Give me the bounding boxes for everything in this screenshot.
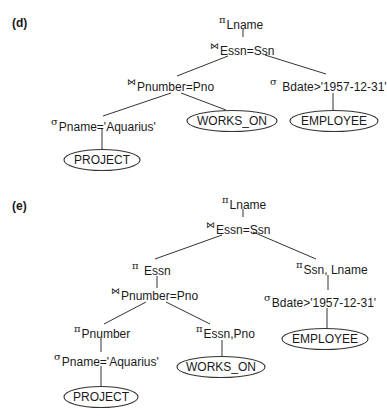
project-lname-node: πLname (219, 16, 263, 32)
node-label: Bdate>'1957-12-31' (272, 296, 376, 310)
node-label: Ssn, Lname (304, 263, 368, 277)
node-label: Essn=Ssn (220, 44, 274, 58)
sigma-icon: σ (51, 116, 58, 127)
edge (155, 235, 222, 259)
pi-icon: π (74, 323, 81, 334)
join-essn-ssn-node: ⋈Essn=Ssn (210, 42, 274, 58)
panel-label-d: (d) (12, 17, 27, 29)
sigma-icon: σ (264, 292, 271, 303)
sigma-icon: σ (54, 351, 61, 362)
node-label: Pnumber=Pno (121, 289, 198, 303)
pi-icon: π (296, 259, 303, 270)
join-pnumber-pno-node: ⋈Pnumber=Pno (111, 287, 198, 303)
node-label: Lname (227, 18, 264, 32)
select-bdate-node: σ Bdate>'1957-12-31' (270, 78, 387, 94)
pi-icon: π (219, 14, 226, 25)
edge (177, 56, 228, 76)
edge (104, 302, 146, 324)
join-icon: ⋈ (206, 220, 215, 230)
relation-works-on: WORKS_ON (177, 361, 265, 373)
join-essn-ssn-node: ⋈Essn=Ssn (206, 221, 270, 237)
node-label: Lname (230, 198, 267, 212)
sigma-icon: σ (270, 76, 277, 87)
relation-works-on: WORKS_ON (187, 115, 277, 127)
edge (181, 93, 226, 110)
project-pnumber-node: πPnumber (74, 325, 130, 341)
join-icon: ⋈ (210, 41, 219, 51)
pi-icon: π (222, 194, 229, 205)
edge (103, 93, 171, 116)
panel-label-e: (e) (12, 200, 27, 212)
relation-project: PROJECT (64, 391, 138, 403)
select-bdate-node: σBdate>'1957-12-31' (264, 294, 376, 310)
join-icon: ⋈ (111, 286, 120, 296)
node-label: Pnumber=Pno (137, 80, 214, 94)
node-label: Pnumber (82, 327, 131, 341)
node-label: Bdate>'1957-12-31' (282, 80, 386, 94)
relation-project: PROJECT (64, 154, 140, 166)
join-icon: ⋈ (127, 77, 136, 87)
pi-icon: π (132, 260, 139, 271)
select-pname-node: σPname='Aquarius' (54, 353, 159, 369)
relation-employee: EMPLOYEE (290, 115, 378, 127)
select-pname-node: σPname='Aquarius' (51, 118, 156, 134)
relation-employee: EMPLOYEE (282, 333, 368, 345)
node-label: Pname='Aquarius' (62, 355, 159, 369)
project-ssn-lname-node: πSsn, Lname (296, 261, 368, 277)
node-label: Essn (144, 264, 171, 278)
pi-icon: π (196, 323, 203, 334)
join-pnumber-pno-node: ⋈Pnumber=Pno (127, 78, 214, 94)
node-label: Pname='Aquarius' (59, 120, 156, 134)
node-label: Essn,Pno (204, 327, 255, 341)
project-lname-node: πLname (222, 196, 266, 212)
edge (166, 302, 210, 324)
node-label: Essn=Ssn (216, 223, 270, 237)
project-essn-pno-node: πEssn,Pno (196, 325, 255, 341)
project-essn-node: π Essn (132, 262, 171, 278)
